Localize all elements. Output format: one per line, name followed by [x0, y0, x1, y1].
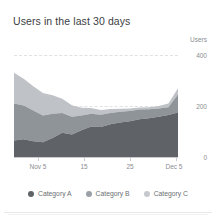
- legend-item-category-a[interactable]: Category A: [28, 190, 72, 197]
- x-axis-tickmark-1: [84, 158, 85, 161]
- stacked-area-plot: [14, 50, 178, 158]
- chart-card: Users in the last 30 days Users 400 200 …: [0, 0, 216, 216]
- x-axis-tickmark-0: [38, 158, 39, 161]
- legend-label-category-a: Category A: [38, 190, 72, 197]
- legend-item-category-b[interactable]: Category B: [86, 190, 130, 197]
- card-bottom-shadow: [8, 214, 208, 215]
- chart-legend: Category A Category B Category C: [0, 190, 216, 197]
- legend-dot-icon-a: [28, 191, 34, 197]
- legend-dot-icon-c: [144, 191, 150, 197]
- legend-dot-icon-b: [86, 191, 92, 197]
- y-axis-tick-200: 200: [196, 103, 207, 110]
- x-axis-tick-nov-5: Nov 5: [30, 163, 47, 170]
- x-axis-tickmark-3: [176, 158, 177, 161]
- y-axis-tick-0: 0: [203, 154, 207, 161]
- legend-label-category-b: Category B: [96, 190, 130, 197]
- legend-label-category-c: Category C: [154, 190, 188, 197]
- page-title: Users in the last 30 days: [13, 15, 130, 27]
- area-chart-svg: [14, 50, 178, 158]
- legend-item-category-c[interactable]: Category C: [144, 190, 188, 197]
- card-bottom-edge: [4, 212, 212, 213]
- x-axis-tick-25: 25: [126, 163, 133, 170]
- x-axis-tick-dec-5: Dec 5: [166, 163, 183, 170]
- x-axis-tickmark-2: [130, 158, 131, 161]
- x-axis-tick-15: 15: [80, 163, 87, 170]
- y-axis-tick-400: 400: [196, 52, 207, 59]
- y-axis-name: Users: [190, 36, 207, 43]
